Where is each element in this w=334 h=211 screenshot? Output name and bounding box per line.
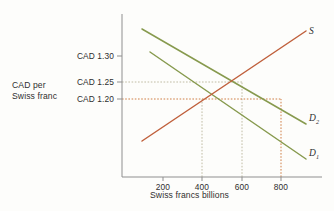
y-axis-title-line1: CAD per [12,80,74,91]
demand-curve-d1 [150,52,306,159]
supply-curve-label: S [309,26,314,36]
y-axis-title: CAD per Swiss franc [12,80,74,102]
demand-curve-d2 [142,29,306,124]
x-axis-title: Swiss francs billions [150,190,290,201]
demand-curve-d2-label: D2 [309,113,319,125]
demand-curve-d1-label-text: D [309,148,316,158]
y-tick-label-130: CAD 1.30 [62,51,114,61]
supply-curve-label-text: S [309,26,314,36]
foreign-exchange-market-chart: CAD 1.30 CAD 1.25 CAD 1.20 200 400 600 8… [0,0,334,211]
demand-curve-d2-label-sub: 2 [316,118,319,125]
demand-curve-d1-label: D1 [309,148,319,160]
y-axis-title-line2: Swiss franc [12,91,74,102]
demand-curve-d1-label-sub: 1 [316,153,319,160]
demand-curve-d2-label-text: D [309,113,316,123]
chart-canvas [0,0,334,211]
